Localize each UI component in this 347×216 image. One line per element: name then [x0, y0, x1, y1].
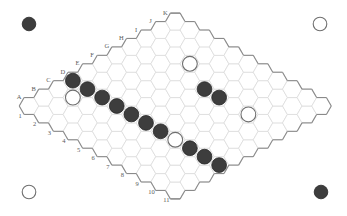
row-label-4: 4	[62, 137, 66, 144]
black-stone-D3	[95, 90, 110, 105]
black-stone-D11	[212, 158, 227, 173]
hex-board: ABCDEFGHIJK1234567891011	[0, 0, 347, 216]
row-label-11: 11	[163, 196, 169, 203]
column-label-J: J	[149, 17, 152, 24]
column-label-G: G	[104, 42, 109, 49]
hex-board-svg: ABCDEFGHIJK1234567891011	[0, 0, 347, 216]
black-stone-H7	[212, 90, 227, 105]
row-label-10: 10	[148, 188, 155, 195]
column-label-D: D	[61, 68, 66, 75]
board-cells	[19, 13, 331, 199]
row-label-5: 5	[77, 146, 80, 153]
bottom-right-black-player-marker	[314, 185, 328, 199]
row-label-2: 2	[33, 120, 36, 127]
black-stone-D4	[109, 99, 124, 114]
row-label-6: 6	[91, 154, 95, 161]
black-stone-D10	[197, 149, 212, 164]
column-label-B: B	[31, 85, 36, 92]
white-stone-H9	[241, 107, 256, 122]
black-stone-D2	[80, 82, 95, 97]
white-stone-C2	[65, 90, 80, 105]
column-label-A: A	[17, 93, 22, 100]
row-label-7: 7	[106, 163, 110, 170]
column-label-E: E	[76, 59, 80, 66]
top-right-white-player-marker	[313, 17, 327, 31]
black-stone-D6	[139, 115, 154, 130]
black-stone-D1	[65, 73, 80, 88]
row-label-9: 9	[135, 180, 138, 187]
black-stone-D7	[153, 124, 168, 139]
black-stone-D9	[182, 141, 197, 156]
row-label-3: 3	[48, 129, 51, 136]
white-stone-I4	[182, 56, 197, 71]
black-stone-H6	[197, 82, 212, 97]
column-label-F: F	[90, 51, 94, 58]
row-label-8: 8	[121, 171, 124, 178]
column-label-I: I	[135, 26, 137, 33]
row-label-1: 1	[18, 112, 21, 119]
bottom-left-white-player-marker	[22, 185, 36, 199]
top-left-black-player-marker	[22, 17, 36, 31]
column-label-C: C	[46, 76, 50, 83]
black-stone-D5	[124, 107, 139, 122]
column-label-H: H	[119, 34, 124, 41]
column-label-K: K	[163, 9, 168, 16]
white-stone-D8	[168, 132, 183, 147]
